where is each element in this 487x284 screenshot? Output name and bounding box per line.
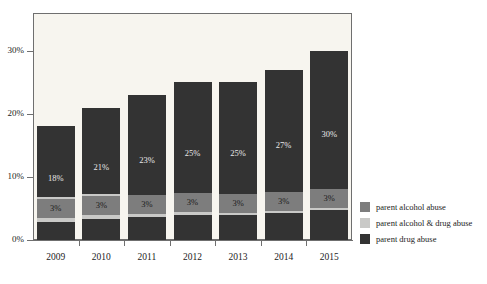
bar-segment-value: 3% — [187, 198, 198, 207]
bar-segment-value: 30% — [321, 130, 337, 139]
x-axis-tick — [79, 241, 80, 246]
bar-segment[interactable]: 3% — [219, 194, 257, 213]
y-axis-tick — [27, 51, 34, 52]
y-axis-line — [33, 13, 34, 241]
bar-segment[interactable]: 3% — [128, 195, 166, 214]
bar-segment[interactable]: 3% — [174, 193, 212, 212]
bar-segment[interactable]: 23% — [128, 95, 166, 240]
x-axis-tick — [261, 241, 262, 246]
x-axis-label-2015: 2015 — [304, 252, 354, 262]
legend-item[interactable]: parent drug abuse — [360, 231, 484, 246]
bar-2014[interactable]: 27%2%3% — [265, 38, 303, 240]
bar-segment-value: 21% — [94, 163, 110, 172]
bar-2013[interactable]: 25%2%3% — [219, 51, 257, 240]
x-axis-label-2012: 2012 — [168, 252, 218, 262]
y-axis-tick — [27, 240, 34, 241]
bar-segment[interactable]: 25% — [174, 82, 212, 240]
bar-2010[interactable]: 21%4%3% — [82, 63, 120, 240]
y-axis-tick — [27, 177, 34, 178]
bar-2009[interactable]: 18%4%3% — [37, 82, 75, 240]
bar-segment-value: 23% — [139, 156, 155, 165]
x-axis-label-2013: 2013 — [213, 252, 263, 262]
legend-item[interactable]: parent alcohol & drug abuse — [360, 215, 484, 230]
bar-segment-value: 3% — [324, 194, 335, 203]
bar-segment-value: 3% — [232, 199, 243, 208]
bar-segment[interactable]: 27% — [265, 70, 303, 240]
y-axis-label: 10% — [0, 171, 24, 181]
bar-2011[interactable]: 23%3%3% — [128, 57, 166, 240]
bar-segment-value: 3% — [50, 204, 61, 213]
bar-segment[interactable]: 3% — [82, 196, 120, 215]
bar-segment-value: 25% — [185, 149, 201, 158]
legend-item[interactable]: parent alcohol abuse — [360, 199, 484, 214]
y-axis-tick — [27, 114, 34, 115]
bar-segment[interactable]: 3% — [37, 199, 75, 218]
bar-segment-value: 3% — [141, 200, 152, 209]
y-axis-label: 30% — [0, 45, 24, 55]
x-axis-label-2011: 2011 — [122, 252, 172, 262]
stacked-bar-chart: 0%10%20%30% 2009201020112012201320142015… — [0, 0, 487, 284]
bar-2012[interactable]: 25%3%3% — [174, 45, 212, 240]
x-axis-tick — [306, 241, 307, 246]
x-axis-tick — [170, 241, 171, 246]
legend-swatch-icon — [360, 218, 370, 228]
chart-legend: parent alcohol abuseparent alcohol & dru… — [360, 199, 484, 247]
bar-segment[interactable]: 25% — [219, 82, 257, 240]
bar-segment-value: 27% — [276, 141, 292, 150]
legend-swatch-icon — [360, 202, 370, 212]
bar-segment[interactable]: 3% — [265, 192, 303, 211]
x-axis-tick — [124, 241, 125, 246]
legend-label: parent alcohol abuse — [376, 202, 446, 212]
x-axis-label-2009: 2009 — [31, 252, 81, 262]
bar-2015[interactable]: 30%2%3% — [310, 19, 348, 240]
y-axis-label: 0% — [0, 234, 24, 244]
legend-label: parent drug abuse — [376, 234, 436, 244]
x-axis-line — [33, 240, 353, 241]
bar-segment[interactable]: 3% — [310, 189, 348, 208]
bar-segment-value: 3% — [96, 201, 107, 210]
y-axis-label: 20% — [0, 108, 24, 118]
bar-segment-value: 3% — [278, 197, 289, 206]
legend-label: parent alcohol & drug abuse — [376, 218, 472, 228]
x-axis-tick — [215, 241, 216, 246]
legend-swatch-icon — [360, 234, 370, 244]
bar-segment[interactable]: 21% — [82, 108, 120, 240]
x-axis-label-2010: 2010 — [76, 252, 126, 262]
bar-segment[interactable]: 18% — [37, 126, 75, 240]
x-axis-label-2014: 2014 — [259, 252, 309, 262]
bar-segment[interactable]: 30% — [310, 51, 348, 240]
bar-segment-value: 25% — [230, 149, 246, 158]
bar-segment-value: 18% — [48, 174, 64, 183]
